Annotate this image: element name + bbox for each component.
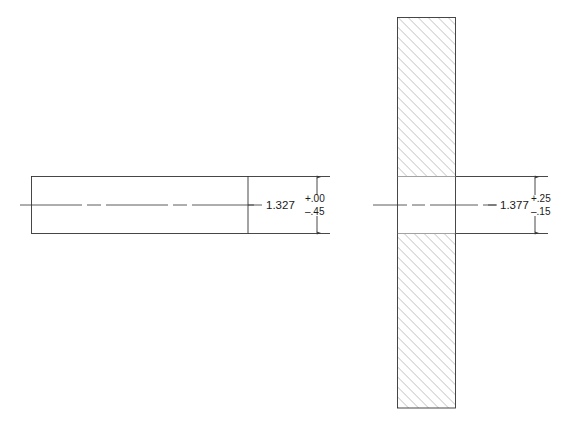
shaft-nominal-value: 1.327	[266, 199, 295, 211]
plate-tolerance-lower: –.15	[531, 206, 551, 217]
plate-tolerance-upper: +.25	[531, 193, 551, 204]
shaft-tolerance-lower: –.45	[305, 206, 325, 217]
plate-section-upper	[398, 18, 456, 177]
drawing-canvas: 1.327 +.00 –.45 1.377 +	[0, 0, 575, 424]
plate-nominal-value: 1.377	[500, 199, 529, 211]
hole-height-dimension: 1.377 +.25 –.15	[488, 177, 551, 233]
shaft-height-dimension: 1.327 +.00 –.45	[248, 177, 325, 233]
engineering-drawing-sheet: 1.327 +.00 –.45 1.377 +	[0, 0, 575, 424]
plate-section-lower	[398, 234, 456, 409]
plate-with-hole-view	[373, 18, 548, 409]
shaft-tolerance-upper: +.00	[305, 193, 325, 204]
